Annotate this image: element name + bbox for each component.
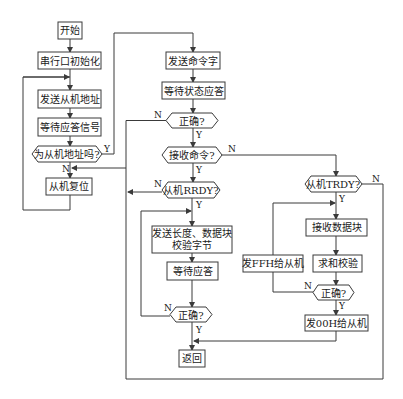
node-slave-rrdy-label: 从机RRDY? xyxy=(163,184,218,196)
node-send-ffh-label: 发FFH给从机 xyxy=(242,257,305,269)
node-receive-cmd: 接收命令? xyxy=(162,147,222,163)
edge-label-n: N xyxy=(304,281,312,291)
flowchart: 开始 串行口初始化 发送从机地址 等待应答信号 为从机地址吗? N 从机复位 Y… xyxy=(0,0,403,399)
node-start-label: 开始 xyxy=(60,24,80,36)
node-correct-2: 正确? xyxy=(170,307,212,322)
node-is-slave-addr-label: 为从机地址吗? xyxy=(34,148,99,160)
edge-label-n: N xyxy=(154,179,162,189)
node-receive-cmd-label: 接收命令? xyxy=(169,149,214,161)
node-wait-ack: 等待应答 xyxy=(167,262,218,280)
edge-send00h-return xyxy=(194,331,336,341)
edge-label-n: N xyxy=(372,174,380,184)
node-slave-rrdy: 从机RRDY? xyxy=(162,182,220,198)
edge-label-y: Y xyxy=(195,200,203,210)
node-start: 开始 xyxy=(58,22,82,39)
node-correct-3: 正确? xyxy=(313,285,354,300)
node-checksum-label: 求和校验 xyxy=(318,257,358,269)
node-send-00h-label: 发00H给从机 xyxy=(306,317,367,329)
node-receive-data-block: 接收数据块 xyxy=(306,219,367,236)
node-send-cmd-word: 发送命令字 xyxy=(166,52,220,69)
node-wait-status-ack: 等待状态应答 xyxy=(162,82,225,99)
node-send-slave-addr-label: 发送从机地址 xyxy=(40,93,100,105)
node-correct-3-label: 正确? xyxy=(321,287,346,299)
node-send-len-data: 发送长度、数据块 校验字节 xyxy=(152,226,232,253)
node-correct-1: 正确? xyxy=(166,113,218,128)
node-checksum: 求和校验 xyxy=(313,255,362,272)
node-wait-ack-signal-label: 等待应答信号 xyxy=(40,121,100,133)
edge-trdy-no-loop xyxy=(126,184,383,379)
node-serial-init-label: 串行口初始化 xyxy=(40,55,100,67)
node-receive-data-block-label: 接收数据块 xyxy=(312,221,362,233)
node-correct-1-label: 正确? xyxy=(179,115,204,127)
node-send-ffh: 发FFH给从机 xyxy=(242,255,305,272)
edge-receivecmd-no xyxy=(222,155,336,176)
node-slave-trdy: 从机TRDY? xyxy=(305,176,362,192)
edge-label-y: Y xyxy=(195,165,203,175)
edge-label-n: N xyxy=(228,144,236,154)
node-wait-ack-signal: 等待应答信号 xyxy=(38,118,101,136)
node-slave-reset: 从机复位 xyxy=(46,178,92,195)
edge-label-y: Y xyxy=(338,194,346,204)
edge-label-n: N xyxy=(62,164,70,174)
node-send-len-data-line1: 发送长度、数据块 xyxy=(152,227,232,239)
node-return: 返回 xyxy=(179,350,205,367)
node-slave-reset-label: 从机复位 xyxy=(49,180,89,192)
edge-label-y: Y xyxy=(195,130,203,140)
node-send-len-data-line2: 校验字节 xyxy=(172,239,212,251)
edge-label-y: Y xyxy=(103,144,111,154)
edge-label-y: Y xyxy=(338,301,346,311)
node-slave-trdy-label: 从机TRDY? xyxy=(306,178,360,190)
node-serial-init: 串行口初始化 xyxy=(38,52,101,69)
node-is-slave-addr: 为从机地址吗? xyxy=(32,146,102,162)
node-wait-status-ack-label: 等待状态应答 xyxy=(164,85,224,97)
node-correct-2-label: 正确? xyxy=(178,309,203,321)
node-send-cmd-word-label: 发送命令字 xyxy=(168,55,218,67)
edge-label-n: N xyxy=(164,303,172,313)
node-send-00h: 发00H给从机 xyxy=(305,315,368,331)
edge-label-y: Y xyxy=(195,325,203,335)
node-send-slave-addr: 发送从机地址 xyxy=(38,90,101,108)
edge-label-n: N xyxy=(154,110,162,120)
node-return-label: 返回 xyxy=(182,353,202,364)
node-wait-ack-label: 等待应答 xyxy=(173,265,213,277)
